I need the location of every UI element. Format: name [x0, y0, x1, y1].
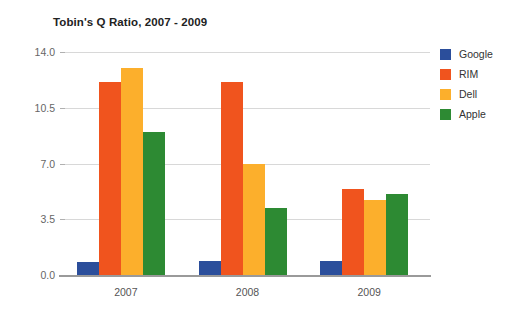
x-axis-tick-label-2008: 2008 [188, 286, 308, 298]
legend-label-google: Google [459, 48, 493, 60]
bar-google-2008[interactable] [199, 261, 221, 275]
y-axis-tick-label: 3.5 [40, 213, 55, 225]
chart-title: Tobin's Q Ratio, 2007 - 2009 [53, 16, 207, 28]
plot-area: 0.03.57.010.514.0 200720082009 [65, 52, 430, 275]
y-axis-tick-label: 7.0 [40, 158, 55, 170]
y-axis-tick-label: 0.0 [40, 269, 55, 281]
x-axis-tick-label-2009: 2009 [309, 286, 429, 298]
y-axis-tick-label: 10.5 [35, 102, 55, 114]
bar-google-2007[interactable] [77, 262, 99, 275]
bar-apple-2009[interactable] [386, 194, 408, 275]
y-axis-tick-mark [60, 219, 65, 220]
bar-apple-2008[interactable] [265, 208, 287, 275]
bar-google-2009[interactable] [320, 261, 342, 275]
bar-group-2007 [77, 52, 165, 275]
y-axis-tick-mark [60, 164, 65, 165]
legend-item-google[interactable]: Google [440, 44, 493, 64]
y-axis-tick-mark [60, 52, 65, 53]
x-axis-line [59, 275, 431, 277]
legend-label-rim: RIM [459, 68, 478, 80]
bar-rim-2008[interactable] [221, 82, 243, 275]
bar-rim-2009[interactable] [342, 189, 364, 275]
legend-item-rim[interactable]: RIM [440, 64, 493, 84]
bar-dell-2008[interactable] [243, 164, 265, 276]
y-axis-tick-label: 14.0 [35, 46, 55, 58]
bar-dell-2007[interactable] [121, 68, 143, 275]
legend-label-apple: Apple [459, 108, 486, 120]
bar-apple-2007[interactable] [143, 132, 165, 275]
bar-group-2009 [320, 52, 408, 275]
x-axis-tick-label-2007: 2007 [66, 286, 186, 298]
y-axis-tick-mark [60, 108, 65, 109]
legend-swatch-rim [440, 69, 451, 80]
chart-legend: GoogleRIMDellApple [440, 44, 493, 124]
legend-item-apple[interactable]: Apple [440, 104, 493, 124]
legend-swatch-google [440, 49, 451, 60]
legend-swatch-dell [440, 89, 451, 100]
legend-swatch-apple [440, 109, 451, 120]
bar-rim-2007[interactable] [99, 82, 121, 275]
chart-container: Tobin's Q Ratio, 2007 - 2009 0.03.57.010… [0, 0, 526, 321]
bar-group-2008 [199, 52, 287, 275]
legend-item-dell[interactable]: Dell [440, 84, 493, 104]
bar-dell-2009[interactable] [364, 200, 386, 275]
legend-label-dell: Dell [459, 88, 477, 100]
